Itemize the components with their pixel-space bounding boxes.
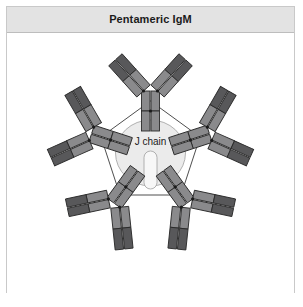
figure-panel: Pentameric IgM [6, 6, 295, 293]
figure-root: Pentameric IgM [0, 0, 303, 307]
page-title: Pentameric IgM [109, 14, 192, 25]
panel-body: J chain [7, 33, 294, 293]
pentameric-igm-diagram: J chain [7, 33, 294, 293]
j-chain-label: J chain [135, 136, 167, 147]
j-chain-capsule [144, 151, 157, 189]
panel-header: Pentameric IgM [7, 7, 294, 33]
igm-monomer-top [109, 54, 193, 131]
